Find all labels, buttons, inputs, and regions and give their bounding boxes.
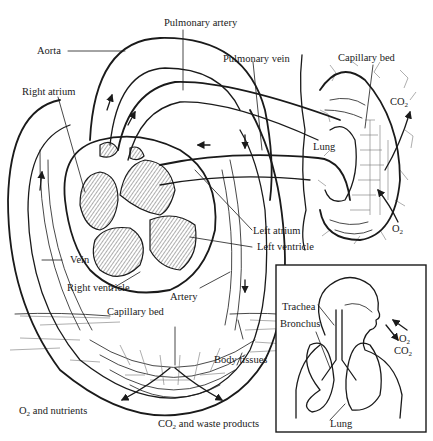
left-atrium-chamber	[120, 160, 175, 215]
label-pulmonary-artery: Pulmonary artery	[164, 17, 237, 29]
inset-label-o2: O2	[399, 333, 410, 345]
label-o2-nutrients: O2 and nutrients	[19, 405, 87, 417]
inset-label-co2: CO2	[394, 345, 412, 357]
heart	[64, 137, 215, 293]
left-ventricle-chamber	[150, 216, 196, 270]
label-capillary-bed-body: Capillary bed	[107, 306, 164, 318]
inset-label-trachea: Trachea	[282, 301, 315, 313]
right-ventricle-chamber	[93, 228, 143, 277]
label-left-atrium: Left atrium	[253, 225, 301, 237]
right-atrium-chamber	[80, 172, 118, 230]
inset-label-lung: Lung	[330, 418, 352, 430]
label-co2-lung: CO2	[390, 96, 408, 108]
label-pulmonary-vein: Pulmonary vein	[223, 53, 290, 65]
label-capillary-bed-lung: Capillary bed	[338, 52, 395, 64]
label-artery: Artery	[170, 291, 197, 303]
circulation-diagram: Pulmonary artery Aorta Pulmonary vein Ca…	[0, 0, 433, 441]
label-lung-main: Lung	[313, 141, 335, 153]
lung-capillary-bed	[320, 72, 400, 240]
label-body-tissues: Body tissues	[214, 354, 267, 366]
body-capillary-net	[90, 340, 255, 398]
inset-label-bronchus: Bronchus	[280, 318, 320, 330]
label-right-atrium: Right atrium	[22, 86, 75, 98]
label-co2-waste: CO2 and waste products	[158, 418, 259, 430]
diagram-drawing	[0, 0, 433, 441]
label-vein: Vein	[70, 254, 89, 266]
label-aorta: Aorta	[37, 45, 61, 57]
label-right-ventricle: Right ventricle	[67, 282, 130, 294]
systemic-circulation-loop	[8, 100, 285, 415]
label-o2-lung: O2	[392, 223, 403, 235]
label-left-ventricle: Left ventricle	[257, 241, 314, 253]
